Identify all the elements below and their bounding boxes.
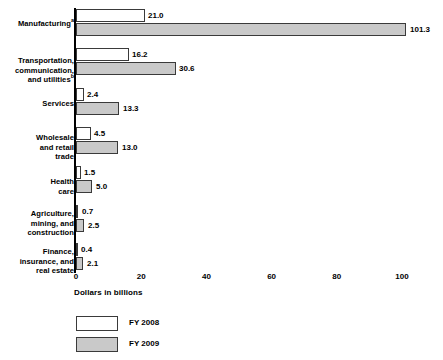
bar-value-fy2009-wholesale-retail: 13.0 (122, 141, 138, 154)
bar-fy2008-wholesale-retail (76, 127, 91, 140)
value-axis-line (74, 8, 76, 273)
category-label-transportation: Transportation, communication, and utili… (2, 47, 74, 85)
category-label-text: Services (42, 99, 74, 108)
legend-swatch-fy2009 (76, 337, 118, 352)
bar-value-fy2009-services: 13.3 (123, 102, 139, 115)
bar-chart: Manufacturinga Transportation, communica… (0, 0, 443, 360)
x-tick-60: 60 (257, 272, 287, 281)
legend-label-fy2008: FY 2008 (129, 318, 159, 327)
bar-value-fy2008-agriculture-mining-construction: 0.7 (82, 205, 93, 218)
bar-value-fy2008-finance-insurance-real-estate: 0.4 (81, 243, 92, 256)
category-label-health-care: Health care (2, 168, 74, 196)
bar-fy2009-transportation (76, 62, 176, 75)
category-label-text: Manufacturing (18, 19, 71, 28)
category-label-finance-insurance-real-estate: Finance, insurance, and real estate (2, 238, 74, 276)
bar-fy2008-services (76, 88, 84, 101)
bar-value-fy2008-services: 2.4 (87, 88, 98, 101)
bar-value-fy2008-transportation: 16.2 (132, 48, 148, 61)
legend-label-fy2009: FY 2009 (129, 339, 159, 348)
bar-value-fy2009-finance-insurance-real-estate: 2.1 (87, 257, 98, 270)
category-label-text: Wholesale and retail trade (36, 133, 74, 161)
category-label-services: Services (2, 90, 74, 109)
bar-value-fy2009-transportation: 30.6 (179, 62, 195, 75)
bar-value-fy2008-health-care: 1.5 (84, 166, 95, 179)
x-tick-80: 80 (322, 272, 352, 281)
x-axis-title: Dollars in billions (74, 288, 143, 297)
bar-fy2008-manufacturing (76, 9, 145, 22)
category-label-agriculture-mining-construction: Agriculture, mining, and construction (2, 200, 74, 238)
category-label-wholesale-retail: Wholesale and retail trade (2, 124, 74, 162)
bar-fy2009-health-care (76, 180, 92, 193)
category-label-text: Transportation, communication, and utili… (15, 56, 74, 84)
bar-fy2008-transportation (76, 48, 129, 61)
bar-fy2009-wholesale-retail (76, 141, 118, 154)
bar-value-fy2009-agriculture-mining-construction: 2.5 (88, 219, 99, 232)
bar-fy2009-finance-insurance-real-estate (76, 257, 83, 270)
bar-fy2008-health-care (76, 166, 81, 179)
bar-fy2009-agriculture-mining-construction (76, 219, 84, 232)
x-tick-100: 100 (387, 272, 417, 281)
category-label-manufacturing: Manufacturinga (2, 10, 74, 29)
bar-value-fy2008-wholesale-retail: 4.5 (94, 127, 105, 140)
bar-value-fy2008-manufacturing: 21.0 (148, 9, 164, 22)
bar-value-fy2009-health-care: 5.0 (96, 180, 107, 193)
category-label-text: Agriculture, mining, and construction (27, 209, 74, 237)
bar-fy2009-manufacturing (76, 23, 406, 36)
bar-value-fy2009-manufacturing: 101.3 (410, 23, 430, 36)
x-tick-20: 20 (126, 272, 156, 281)
bar-fy2009-services (76, 102, 119, 115)
x-tick-40: 40 (191, 272, 221, 281)
legend-swatch-fy2008 (76, 316, 118, 331)
x-tick-0: 0 (61, 272, 91, 281)
category-label-text: Health care (50, 177, 74, 195)
